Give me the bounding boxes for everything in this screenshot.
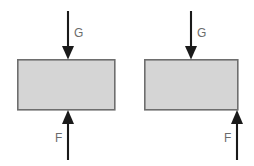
left-diagram: G F	[18, 11, 115, 160]
arrow-head-F-right	[231, 110, 243, 124]
force-label-G-right: G	[197, 26, 206, 40]
force-label-F-left: F	[55, 131, 62, 145]
arrow-head-G-right	[185, 46, 197, 60]
force-arrow-G-left: G	[62, 11, 83, 60]
force-label-F-right: F	[224, 131, 231, 145]
right-diagram: G F	[145, 11, 243, 160]
arrow-head-G-left	[62, 46, 74, 60]
figure-canvas: G F G F	[0, 0, 254, 166]
force-arrow-F-right: F	[224, 110, 243, 160]
force-label-G-left: G	[74, 26, 83, 40]
force-diagram-svg: G F G F	[0, 0, 254, 166]
arrow-head-F-left	[62, 110, 74, 124]
block-rectangle-left	[18, 60, 115, 110]
block-rectangle-right	[145, 60, 238, 110]
force-arrow-G-right: G	[185, 11, 206, 60]
force-arrow-F-left: F	[55, 110, 74, 160]
